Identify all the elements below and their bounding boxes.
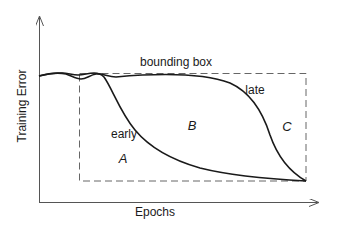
bounding-box-label: bounding box (140, 55, 212, 69)
region-b-label: B (188, 118, 197, 133)
y-axis-label: Training Error (15, 70, 29, 143)
region-a-label: A (118, 151, 128, 166)
training-error-diagram: bounding box late early A B C Epochs Tra… (0, 0, 338, 226)
x-axis-label: Epochs (135, 205, 175, 219)
region-c-label: C (282, 119, 292, 134)
late-curve-label: late (245, 83, 265, 97)
early-curve-label: early (111, 127, 137, 141)
